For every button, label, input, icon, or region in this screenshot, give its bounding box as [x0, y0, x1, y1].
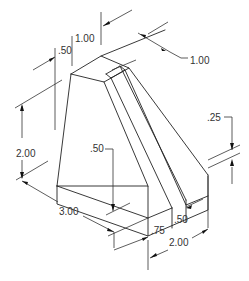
label-right-step: .25: [207, 112, 221, 123]
label-slot-width: .50: [174, 214, 188, 225]
label-depth: 2.00: [169, 237, 189, 248]
dimension-labels: .50 1.00 1.00 2.00 .50 3.00 .75 .50 2.00…: [16, 33, 221, 248]
label-length: 3.00: [59, 206, 79, 217]
label-height: 2.00: [16, 148, 36, 159]
label-top-step: .50: [58, 45, 72, 56]
dimension-lines: [15, 10, 240, 270]
isometric-drawing: .50 1.00 1.00 2.00 .50 3.00 .75 .50 2.00…: [0, 0, 249, 281]
object-geometry: [57, 30, 208, 236]
label-front-offset: .75: [151, 225, 165, 236]
label-top-width: 1.00: [75, 33, 95, 44]
label-base-thickness: .50: [90, 143, 104, 154]
label-right-top-depth: 1.00: [190, 55, 210, 66]
